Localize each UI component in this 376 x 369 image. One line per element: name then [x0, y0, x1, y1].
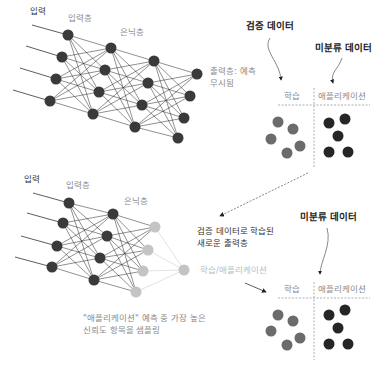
neuron-node	[150, 222, 161, 233]
unlabeled-arrow-bottom	[320, 228, 328, 274]
neuron-node	[58, 218, 69, 229]
neuron-node	[179, 265, 190, 276]
top-network	[13, 25, 203, 144]
train-app-label: 학습/애플리케이션	[200, 265, 267, 276]
neuron-node	[137, 100, 148, 111]
top-app-dots	[324, 114, 354, 158]
bottom-hidden-layer-label: 은닉층	[124, 196, 148, 207]
validation-arrow	[268, 38, 281, 80]
bottom-edges-light	[136, 227, 184, 292]
top-output-note-2: 무시됨	[210, 78, 234, 89]
neuron-node	[108, 209, 119, 220]
neuron-node	[173, 133, 184, 144]
neuron-node	[138, 266, 149, 277]
dashed-transfer-arrow	[220, 173, 308, 216]
neuron-node	[106, 43, 117, 54]
neuron-node	[89, 275, 100, 286]
neuron-node	[64, 198, 75, 209]
top-train-dots	[266, 117, 306, 159]
bottom-input-label: 입력	[24, 174, 40, 185]
neuron-node	[149, 56, 160, 67]
bottom-application-label: 애플리케이션	[318, 284, 366, 295]
neuron-node	[45, 96, 56, 107]
neuron-node	[57, 52, 68, 63]
top-hidden-layer-label: 은닉층	[120, 27, 144, 38]
top-nodes	[45, 30, 203, 144]
neuron-node	[51, 74, 62, 85]
neuron-node	[130, 122, 141, 133]
top-output-note-1: 출력층: 예측	[210, 66, 256, 77]
neuron-node	[131, 287, 142, 298]
top-input-label: 입력	[30, 6, 46, 17]
top-application-label: 애플리케이션	[318, 91, 366, 102]
neuron-node	[179, 113, 190, 124]
unlabeled-arrow-top	[332, 58, 342, 83]
neuron-node	[63, 30, 74, 41]
bottom-edges	[52, 203, 155, 292]
sampling-note-1: "애플리케이션" 예측 중 가장 높은	[83, 313, 206, 324]
bottom-app-dots	[324, 305, 354, 350]
bottom-train-dots	[266, 310, 306, 351]
neuron-node	[52, 241, 63, 252]
neuron-node	[100, 65, 111, 76]
neuron-node	[88, 109, 99, 120]
top-unlabeled-data-label: 미분류 데이터	[315, 42, 372, 53]
neuron-node	[185, 91, 196, 102]
neuron-node	[192, 69, 203, 80]
validation-data-label: 검증 데이터	[246, 20, 294, 31]
top-input-layer-label: 입력층	[68, 13, 92, 24]
top-input-lines	[13, 25, 68, 101]
bottom-input-lines	[15, 193, 69, 267]
sampling-note-2: 신뢰도 항목을 샘플링	[83, 325, 160, 336]
bottom-nodes	[47, 198, 190, 298]
neuron-node	[143, 78, 154, 89]
new-output-note-2: 새로운 출력층	[197, 238, 248, 249]
bottom-unlabeled-data-label: 미분류 데이터	[300, 211, 357, 222]
neuron-node	[94, 87, 105, 98]
top-scatter	[266, 38, 371, 168]
top-edges	[50, 35, 197, 138]
bottom-input-layer-label: 입력층	[66, 180, 90, 191]
neuron-node	[143, 245, 154, 256]
new-output-note-1: 검증 데이터로 학습된	[197, 226, 274, 237]
bottom-network	[15, 193, 190, 298]
train-app-arrow	[245, 283, 266, 292]
top-train-label: 학습	[284, 91, 300, 102]
neuron-node	[95, 253, 106, 264]
neuron-node	[47, 262, 58, 273]
bottom-train-label: 학습	[284, 284, 300, 295]
neuron-node	[102, 231, 113, 242]
